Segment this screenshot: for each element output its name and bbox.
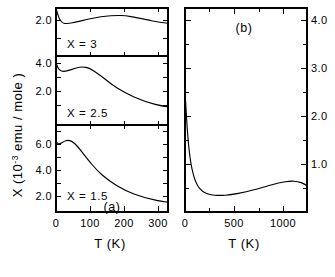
subpanel-x15-yticklabel-1: 4.0 bbox=[36, 164, 53, 176]
panel-b-xticklabel-1: 500 bbox=[224, 217, 244, 229]
panel-a-xticklabels: 0 100 200 300 bbox=[53, 217, 168, 229]
y-axis-label-prefix: X (10 bbox=[10, 164, 25, 198]
svg-text:X (10-3 emu / mole ): X (10-3 emu / mole ) bbox=[10, 73, 25, 198]
panel-b-yticklabel-2: 2.0 bbox=[311, 110, 328, 122]
panel-b-xaxis-title: T (K) bbox=[228, 236, 260, 251]
subpanel-x25-yticklabel-1: 2.0 bbox=[36, 85, 53, 97]
panel-b-xticklabels: 0 500 1000 bbox=[182, 217, 296, 229]
subpanel-x15: 6.0 4.0 2.0 X = 1.5 (a) bbox=[36, 125, 169, 214]
subpanel-x25: 4.0 2.0 X = 2.5 bbox=[36, 56, 169, 125]
figure-container: X (10-3 emu / mole ) bbox=[0, 0, 335, 277]
panel-a-tag: (a) bbox=[103, 200, 120, 214]
panel-b-yticklabel-0: 4.0 bbox=[311, 14, 328, 26]
panel-a-xticklabel-1: 100 bbox=[80, 217, 100, 229]
panel-a-xticklabel-2: 200 bbox=[114, 217, 134, 229]
panel-b-yticklabel-3: 1.0 bbox=[311, 158, 328, 170]
panel-b-yticklabel-1: 3.0 bbox=[311, 62, 328, 74]
subpanel-x25-series-label: X = 2.5 bbox=[67, 107, 108, 119]
curve-panel-b bbox=[186, 101, 307, 195]
subpanel-x15-series-label: X = 1.5 bbox=[67, 190, 108, 202]
y-axis-label-suffix: emu / mole ) bbox=[10, 73, 25, 155]
curve-x25 bbox=[56, 63, 168, 107]
panel-a: 2.0 X = 3 bbox=[36, 8, 169, 251]
panel-b: 4.0 3.0 2.0 1.0 (b) bbox=[185, 8, 328, 212]
panel-a-xticklabel-3: 300 bbox=[148, 217, 168, 229]
panel-b-xticklabel-0: 0 bbox=[182, 217, 189, 229]
subpanel-x3-yticklabel-0: 2.0 bbox=[36, 14, 53, 26]
panel-b-xticklabel-2: 1000 bbox=[270, 217, 296, 229]
figure-svg: X (10-3 emu / mole ) bbox=[0, 0, 335, 277]
panel-b-tag: (b) bbox=[235, 21, 252, 35]
subpanel-x15-yticklabel-0: 6.0 bbox=[36, 138, 53, 150]
subpanel-x3: 2.0 X = 3 bbox=[36, 8, 169, 56]
panel-a-xaxis-title: T (K) bbox=[94, 236, 126, 251]
curve-x3 bbox=[56, 8, 168, 23]
y-axis-label: X (10-3 emu / mole ) bbox=[10, 73, 25, 198]
panel-a-xticklabel-0: 0 bbox=[53, 217, 60, 229]
y-axis-label-exponent: -3 bbox=[10, 155, 20, 164]
subpanel-x25-yticklabel-0: 4.0 bbox=[36, 57, 53, 69]
subpanel-x3-series-label: X = 3 bbox=[67, 38, 97, 50]
subpanel-x15-yticklabel-2: 2.0 bbox=[36, 190, 53, 202]
